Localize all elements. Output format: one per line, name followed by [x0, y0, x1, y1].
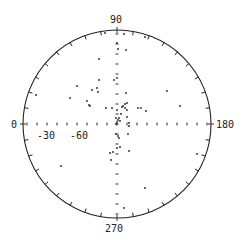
- data-point: [118, 117, 120, 119]
- data-point: [126, 116, 128, 118]
- data-point: [123, 33, 125, 35]
- data-point: [98, 58, 100, 60]
- data-point: [123, 207, 125, 209]
- radial-label-30: -30: [37, 131, 55, 141]
- label-270: 270: [105, 224, 123, 234]
- data-point: [116, 147, 118, 149]
- data-point: [140, 107, 142, 109]
- data-point: [117, 48, 119, 50]
- data-point: [110, 159, 112, 161]
- label-180: 180: [216, 120, 234, 130]
- data-point: [125, 92, 127, 94]
- data-point: [145, 110, 147, 112]
- data-point: [111, 107, 113, 109]
- data-point: [166, 90, 168, 92]
- data-point: [60, 165, 62, 167]
- data-point: [128, 122, 130, 124]
- data-point: [124, 107, 126, 109]
- data-point: [117, 135, 119, 137]
- data-point: [137, 107, 139, 109]
- data-point: [35, 94, 37, 96]
- radial-label-60: -60: [70, 131, 88, 141]
- data-point: [128, 150, 130, 152]
- data-point: [97, 91, 99, 93]
- data-point: [144, 36, 146, 38]
- data-point: [118, 137, 120, 139]
- data-points: [35, 32, 198, 209]
- data-point: [120, 113, 122, 115]
- data-point: [115, 133, 117, 135]
- data-point: [86, 100, 88, 102]
- label-0: 0: [11, 120, 17, 130]
- stereonet-plot: [0, 0, 243, 245]
- data-point: [98, 79, 100, 81]
- data-point: [91, 89, 93, 91]
- data-point: [119, 120, 121, 122]
- data-point: [116, 77, 118, 79]
- data-point: [126, 109, 128, 111]
- data-point: [113, 79, 115, 81]
- data-point: [116, 109, 118, 111]
- data-point: [196, 153, 198, 155]
- data-point: [127, 133, 129, 135]
- data-point: [115, 117, 117, 119]
- data-point: [116, 121, 118, 123]
- data-point: [89, 105, 91, 107]
- data-point: [116, 42, 118, 44]
- label-90: 90: [110, 15, 122, 25]
- data-point: [124, 103, 126, 105]
- data-point: [105, 107, 107, 109]
- data-point: [119, 146, 121, 148]
- data-point: [76, 85, 78, 87]
- data-point: [104, 32, 106, 34]
- data-point: [115, 123, 117, 125]
- data-point: [112, 151, 114, 153]
- data-point: [109, 152, 111, 154]
- data-point: [125, 49, 127, 51]
- data-point: [117, 119, 119, 121]
- data-point: [126, 102, 128, 104]
- data-point: [128, 125, 130, 127]
- axis-ticks: [20, 27, 214, 221]
- data-point: [96, 87, 98, 89]
- data-point: [69, 97, 71, 99]
- data-point: [179, 105, 181, 107]
- data-point: [121, 106, 123, 108]
- data-point: [144, 187, 146, 189]
